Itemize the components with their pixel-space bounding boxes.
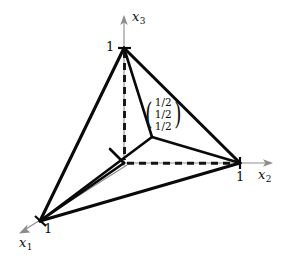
vector-open-paren: ( <box>145 102 152 127</box>
center-point-vector-label: ( 1/2 1/2 1/2 ) <box>143 97 183 132</box>
solid-edges-group <box>40 48 240 221</box>
x1-tick-label: 1 <box>44 222 52 235</box>
simplex-figure: x3 1 x2 1 x1 1 ( 1/2 1/2 1/2 ) <box>0 0 288 261</box>
x1-axis-arrowhead <box>19 224 30 233</box>
x3-tick-label: 1 <box>106 40 114 53</box>
edge-origin-corner-up <box>110 149 124 163</box>
vector-components: 1/2 1/2 1/2 <box>155 97 172 132</box>
tick-group <box>35 48 240 226</box>
vector-component-3: 1/2 <box>155 121 172 133</box>
x2-tick-label: 1 <box>236 170 244 183</box>
vector-component-2: 1/2 <box>155 109 172 121</box>
x1-axis-label: x1 <box>19 236 32 252</box>
x3-axis-label: x3 <box>132 10 145 26</box>
x2-axis-label: x2 <box>258 168 271 184</box>
vector-component-1: 1/2 <box>155 97 172 109</box>
edge-e2-to-e1 <box>40 163 240 221</box>
edge-e1-to-e3 <box>40 48 124 221</box>
vector-close-paren: ) <box>174 102 181 127</box>
